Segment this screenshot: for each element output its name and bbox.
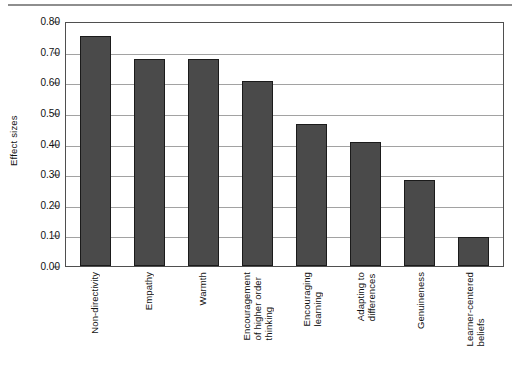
bar-chart-figure: Effect sizes 0.800.700.600.500.400.300.2… bbox=[0, 0, 520, 374]
x-axis-tick-label: Empathy bbox=[143, 272, 154, 310]
x-label-slot: Genuineness bbox=[393, 272, 447, 372]
bar bbox=[404, 180, 435, 266]
x-axis-tick-label: Learner-centered beliefs bbox=[464, 272, 486, 346]
bar bbox=[296, 124, 327, 266]
x-label-slot: Empathy bbox=[121, 272, 175, 372]
x-axis-tick-labels: Non-directivityEmpathyWarmthEncouragemen… bbox=[65, 272, 504, 372]
bar-slot bbox=[285, 23, 339, 266]
top-divider-rule bbox=[8, 4, 512, 6]
y-axis-tick-label: 0.50 bbox=[16, 109, 60, 119]
bar bbox=[134, 59, 165, 266]
x-label-slot: Warmth bbox=[176, 272, 230, 372]
x-label-slot: Encouragement of higher order thinking bbox=[230, 272, 284, 372]
y-axis-tick-label: 0.60 bbox=[16, 78, 60, 88]
bar-series bbox=[66, 23, 503, 266]
bar-slot bbox=[339, 23, 393, 266]
bar-slot bbox=[393, 23, 447, 266]
y-axis-tick-label: 0.40 bbox=[16, 140, 60, 150]
plot-area bbox=[65, 22, 504, 267]
x-axis-tick-label: Encouragement of higher order thinking bbox=[241, 272, 274, 340]
x-axis-tick-label: Non-directivity bbox=[89, 272, 100, 334]
bar-slot bbox=[230, 23, 284, 266]
bar bbox=[80, 36, 111, 266]
bar bbox=[350, 142, 381, 266]
bar-slot bbox=[122, 23, 176, 266]
x-axis-tick-label: Adapting to differences bbox=[355, 272, 377, 321]
x-label-slot: Encouraging learning bbox=[285, 272, 339, 372]
x-axis-tick-label: Encouraging learning bbox=[301, 272, 323, 326]
x-label-slot: Adapting to differences bbox=[339, 272, 393, 372]
y-axis-tick-label: 0.20 bbox=[16, 201, 60, 211]
bar-slot bbox=[447, 23, 501, 266]
y-axis-tick-labels: 0.800.700.600.500.400.300.200.100.00 bbox=[12, 22, 60, 267]
x-label-slot: Learner-centered beliefs bbox=[448, 272, 502, 372]
bar-slot bbox=[68, 23, 122, 266]
bar bbox=[458, 237, 489, 266]
y-axis-tick-label: 0.00 bbox=[16, 262, 60, 272]
y-axis-tick-label: 0.70 bbox=[16, 48, 60, 58]
x-label-slot: Non-directivity bbox=[67, 272, 121, 372]
x-axis-tick-label: Warmth bbox=[197, 272, 208, 306]
y-axis-tick-label: 0.30 bbox=[16, 170, 60, 180]
y-axis-tick-label: 0.80 bbox=[16, 17, 60, 27]
bar bbox=[188, 59, 219, 266]
bar bbox=[242, 81, 273, 266]
x-axis-tick-label: Genuineness bbox=[415, 272, 426, 329]
bar-slot bbox=[176, 23, 230, 266]
y-axis-tick-label: 0.10 bbox=[16, 231, 60, 241]
